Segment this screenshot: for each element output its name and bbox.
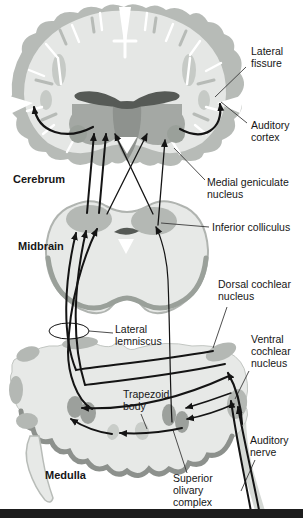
label-trapezoid-body: Trapezoid body — [123, 388, 169, 412]
auditory-pathway-figure: Lateral fissure Auditory cortex Cerebrum… — [0, 0, 303, 518]
footer-bar — [0, 509, 303, 518]
label-cerebrum: Cerebrum — [13, 173, 65, 186]
label-auditory-cortex: Auditory cortex — [251, 119, 290, 143]
label-ventral-cochlear: Ventral cochlear nucleus — [251, 333, 291, 370]
label-lateral-fissure: Lateral fissure — [251, 45, 283, 69]
label-medial-geniculate: Medial geniculate nucleus — [207, 176, 289, 200]
label-lateral-lemniscus: Lateral lemniscus — [115, 323, 162, 347]
inferior-colliculus-left — [66, 205, 112, 233]
label-auditory-nerve: Auditory nerve — [250, 434, 289, 458]
label-dorsal-cochlear: Dorsal cochlear nucleus — [218, 278, 291, 302]
label-superior-olivary: Superior olivary complex — [173, 472, 213, 509]
medial-geniculate-right — [167, 125, 185, 143]
label-midbrain: Midbrain — [18, 240, 64, 253]
label-inferior-colliculus: Inferior colliculus — [212, 221, 290, 233]
label-medulla: Medulla — [45, 469, 86, 482]
cerebrum-section — [6, 4, 244, 166]
